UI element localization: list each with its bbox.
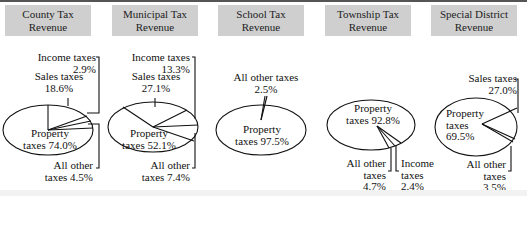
label-line: All other bbox=[151, 159, 190, 171]
label-line: Income taxes bbox=[38, 51, 96, 63]
label-line: 69.5% bbox=[446, 130, 474, 142]
label-line: Property bbox=[354, 102, 392, 114]
label-county-property: Propertytaxes 74.0% bbox=[15, 128, 85, 151]
label-line: taxes 92.8% bbox=[346, 114, 400, 126]
label-line: 18.6% bbox=[45, 82, 73, 94]
label-line: Sales taxes bbox=[35, 70, 84, 82]
label-township-property: Propertytaxes 92.8% bbox=[338, 103, 408, 126]
bottom-band bbox=[0, 190, 527, 196]
label-line: taxes bbox=[363, 169, 386, 181]
label-school-property: Propertytaxes 97.5% bbox=[232, 124, 292, 147]
label-township-income: Incometaxes2.4% bbox=[401, 158, 441, 193]
label-line: Income taxes bbox=[132, 51, 190, 63]
label-line: Property bbox=[243, 123, 281, 135]
label-line: All other bbox=[467, 158, 506, 170]
label-line: taxes bbox=[401, 169, 424, 181]
label-line: taxes bbox=[483, 170, 506, 182]
label-special-property: Propertytaxes69.5% bbox=[446, 108, 496, 143]
label-municipal-property: Propertytaxes 52.1% bbox=[113, 128, 185, 151]
label-line: All other bbox=[54, 159, 93, 171]
label-line: taxes bbox=[446, 119, 469, 131]
label-line: All other taxes bbox=[234, 71, 299, 83]
label-line: taxes 97.5% bbox=[235, 135, 289, 147]
label-line: taxes 74.0% bbox=[23, 139, 77, 151]
label-special-sales: Sales taxes27.0% bbox=[450, 73, 517, 96]
label-line: All other bbox=[347, 157, 386, 169]
label-special-other: All othertaxes3.5% bbox=[460, 159, 506, 194]
label-municipal-sales: Sales taxes27.1% bbox=[125, 71, 187, 94]
label-line: taxes 7.4% bbox=[142, 171, 190, 183]
label-line: Income bbox=[401, 157, 434, 169]
label-line: Sales taxes bbox=[132, 70, 181, 82]
label-line: taxes 4.5% bbox=[45, 171, 93, 183]
label-line: Property bbox=[31, 127, 69, 139]
label-line: 2.5% bbox=[255, 83, 278, 95]
label-line: Property bbox=[130, 127, 168, 139]
label-line: 27.1% bbox=[142, 82, 170, 94]
label-line: 27.0% bbox=[489, 84, 517, 96]
label-township-other: All othertaxes4.7% bbox=[340, 158, 386, 193]
label-line: Property bbox=[446, 107, 484, 119]
label-county-other: All othertaxes 4.5% bbox=[30, 160, 93, 183]
label-county-sales: Sales taxes18.6% bbox=[28, 71, 90, 94]
label-line: Sales taxes bbox=[468, 72, 517, 84]
label-line: taxes 52.1% bbox=[122, 139, 176, 151]
label-school-other: All other taxes2.5% bbox=[226, 72, 306, 95]
label-municipal-other: All othertaxes 7.4% bbox=[128, 160, 190, 183]
